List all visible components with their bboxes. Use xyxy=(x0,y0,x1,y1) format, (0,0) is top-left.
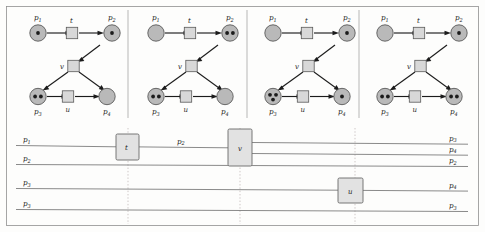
token xyxy=(39,95,43,99)
process-transition-label-u: u xyxy=(348,188,353,196)
arc-v-p4 xyxy=(197,72,219,88)
token xyxy=(271,98,275,102)
place-label-p2: p2 xyxy=(343,13,351,23)
place-p1 xyxy=(377,25,393,41)
token xyxy=(340,95,344,99)
transition-v xyxy=(68,60,79,71)
figure-canvas: p1 p2 p3 p4 t v u xyxy=(0,0,485,232)
transition-v xyxy=(186,60,197,71)
transition-label-t: t xyxy=(417,17,420,25)
process-left-label-1: p1 xyxy=(23,135,31,145)
transition-label-t: t xyxy=(70,17,73,25)
process-right-label-5: p3 xyxy=(449,201,457,211)
arc-p2-v xyxy=(317,45,336,59)
transition-u xyxy=(409,91,420,102)
transition-t xyxy=(184,27,195,38)
process-transition-label-t: t xyxy=(125,144,128,152)
place-label-p1: p1 xyxy=(381,13,389,23)
place-label-p1: p1 xyxy=(269,13,277,23)
token xyxy=(274,93,278,97)
arc-v-p3 xyxy=(282,72,304,88)
transition-t xyxy=(66,27,77,38)
process-net: t v u p1 p2 p3 p3 p2 p3 p4 p2 p4 p3 xyxy=(16,128,468,224)
arc-v-p3 xyxy=(47,72,69,88)
token xyxy=(225,31,229,35)
process-left-label-4: p3 xyxy=(23,199,31,209)
transition-label-u: u xyxy=(413,106,418,114)
arrowhead-t-p2 xyxy=(98,31,105,36)
process-right-label-3: p2 xyxy=(449,156,457,166)
process-inline-label-p2: p2 xyxy=(177,137,185,147)
place-label-p4: p4 xyxy=(450,107,458,117)
arc-v-p4 xyxy=(314,72,336,88)
process-left-label-3: p3 xyxy=(23,178,31,188)
place-p3 xyxy=(148,88,164,104)
transition-t xyxy=(301,27,312,38)
transition-label-v: v xyxy=(407,63,411,71)
place-p4 xyxy=(446,88,462,104)
token xyxy=(386,95,390,99)
token xyxy=(345,31,349,35)
transition-label-u: u xyxy=(66,106,71,114)
petri-net-4: p1 p2 p3 p4 t v u xyxy=(377,13,467,117)
condition-line-p3-second xyxy=(16,210,468,212)
token xyxy=(457,31,461,35)
token xyxy=(36,31,40,35)
place-label-p3: p3 xyxy=(381,107,389,117)
petri-net-2: p1 p2 p3 p4 t v u xyxy=(148,13,238,117)
transition-u xyxy=(297,91,308,102)
process-right-label-2: p4 xyxy=(449,145,457,155)
process-right-label-1: p3 xyxy=(449,134,457,144)
arrowhead-t-p2 xyxy=(333,31,340,36)
token xyxy=(110,31,114,35)
transition-label-v: v xyxy=(60,63,64,71)
condition-line-p4-out xyxy=(252,154,468,156)
transition-label-t: t xyxy=(188,17,191,25)
transition-label-v: v xyxy=(295,63,299,71)
place-label-p4: p4 xyxy=(338,107,346,117)
petri-net-figure: p1 p2 p3 p4 t v u xyxy=(0,0,485,232)
place-p1 xyxy=(148,25,164,41)
transition-u xyxy=(62,91,73,102)
place-p3 xyxy=(265,88,281,104)
transition-label-u: u xyxy=(184,106,189,114)
place-p3 xyxy=(30,88,46,104)
place-label-p3: p3 xyxy=(152,107,160,117)
place-label-p1: p1 xyxy=(34,13,42,23)
condition-line-p1 xyxy=(16,146,116,147)
token xyxy=(455,95,459,99)
arc-p2-v xyxy=(200,45,219,59)
place-p4 xyxy=(99,88,115,104)
arc-v-p4 xyxy=(79,72,101,88)
condition-line-p4-after-u xyxy=(363,190,468,191)
petri-net-1: p1 p2 p3 p4 t v u xyxy=(30,13,120,117)
transition-t xyxy=(413,27,424,38)
place-p3 xyxy=(377,88,393,104)
transition-u xyxy=(180,91,191,102)
place-label-p3: p3 xyxy=(269,107,277,117)
transition-label-t: t xyxy=(305,17,308,25)
petri-net-3: p1 p2 p3 p4 t v u xyxy=(265,13,355,117)
token xyxy=(268,93,272,97)
place-label-p2: p2 xyxy=(226,13,234,23)
condition-line-p2-mid xyxy=(139,147,228,148)
transition-v xyxy=(415,60,426,71)
place-p2 xyxy=(222,25,238,41)
arrowhead-t-p2 xyxy=(216,31,223,36)
token xyxy=(33,95,37,99)
place-p4 xyxy=(217,88,233,104)
condition-line-p3 xyxy=(16,189,338,191)
process-left-label-2: p2 xyxy=(23,154,31,164)
place-label-p2: p2 xyxy=(455,13,463,23)
process-transition-label-v: v xyxy=(238,145,242,153)
arrowhead-t-p2 xyxy=(445,31,452,36)
token xyxy=(231,31,235,35)
place-label-p1: p1 xyxy=(152,13,160,23)
process-right-label-4: p4 xyxy=(449,181,457,191)
arc-v-p3 xyxy=(165,72,187,88)
place-label-p4: p4 xyxy=(103,107,111,117)
place-label-p3: p3 xyxy=(34,107,42,117)
place-label-p4: p4 xyxy=(221,107,229,117)
place-p1 xyxy=(265,25,281,41)
transition-label-u: u xyxy=(301,106,306,114)
